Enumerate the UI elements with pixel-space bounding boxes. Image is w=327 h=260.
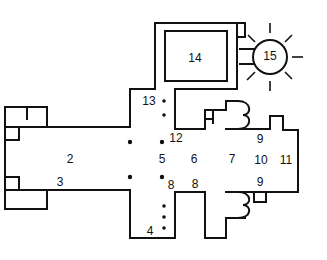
label-4: 4 xyxy=(147,224,154,238)
label-3: 3 xyxy=(57,175,64,189)
pillar xyxy=(160,175,164,179)
label-round-chapel: 15 xyxy=(263,49,277,63)
label-11: 11 xyxy=(280,153,293,167)
pillar xyxy=(162,226,166,230)
label-cloister: 14 xyxy=(188,51,202,65)
label-9-north: 9 xyxy=(257,132,264,146)
label-8a: 8 xyxy=(168,178,175,192)
pillar xyxy=(162,204,166,208)
label-6: 6 xyxy=(191,152,198,166)
pillar xyxy=(162,99,166,103)
pillar xyxy=(162,113,166,117)
pillar xyxy=(160,140,164,144)
label-10: 10 xyxy=(254,153,268,167)
label-crossing: 5 xyxy=(159,152,166,166)
label-13: 13 xyxy=(142,94,156,108)
pillar xyxy=(162,215,166,219)
label-12: 12 xyxy=(169,131,183,145)
floor-plan: 2 3 4 5 6 7 8 8 9 9 10 11 12 13 14 15 xyxy=(0,0,327,260)
pillar xyxy=(128,140,132,144)
label-8b: 8 xyxy=(192,177,199,191)
south-annex xyxy=(254,192,266,202)
label-7: 7 xyxy=(229,152,236,166)
label-9-south: 9 xyxy=(257,175,264,189)
label-nave: 2 xyxy=(67,152,74,166)
pillar xyxy=(128,175,132,179)
